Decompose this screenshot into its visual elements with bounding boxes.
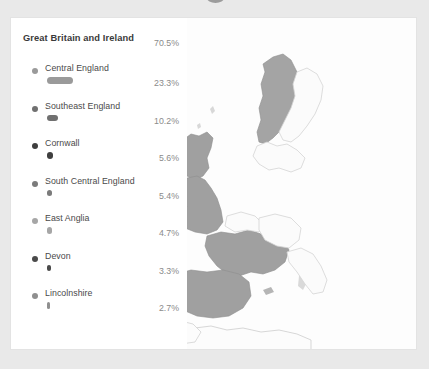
subregion-bar (47, 152, 53, 159)
region-header[interactable]: Great Britain and Ireland 70.5% (11, 30, 187, 56)
subregion-label: Central England (45, 63, 109, 73)
list-item[interactable]: Cornwall 5.6% (11, 137, 187, 175)
subregion-list: Central England 23.3% Southeast England … (11, 62, 187, 325)
subregion-dot-icon (32, 143, 38, 149)
subregion-percent: 23.3% (154, 78, 179, 88)
subregion-bar (47, 227, 52, 234)
subregion-percent: 2.7% (159, 303, 179, 313)
subregion-bar (47, 302, 50, 309)
subregion-dot-icon (32, 293, 38, 299)
subregion-label: Lincolnshire (45, 288, 93, 298)
subregion-label: Southeast England (45, 101, 120, 111)
list-item[interactable]: Lincolnshire 2.7% (11, 287, 187, 325)
subregion-label: South Central England (45, 176, 135, 186)
subregion-percent: 10.2% (154, 116, 179, 126)
list-item[interactable]: Southeast England 10.2% (11, 100, 187, 138)
subregion-dot-icon (32, 106, 38, 112)
subregion-percent: 3.3% (159, 266, 179, 276)
subregion-bar (47, 190, 52, 197)
subregion-label: Cornwall (45, 138, 80, 148)
list-item[interactable]: South Central England 5.4% (11, 175, 187, 213)
ethnicity-card: Great Britain and Ireland 70.5% Central … (11, 18, 416, 349)
subregion-dot-icon (32, 256, 38, 262)
subregion-bar (47, 265, 51, 272)
subregion-label: Devon (45, 251, 71, 261)
subregion-dot-icon (32, 218, 38, 224)
subregion-dot-icon (32, 181, 38, 187)
subregion-bar (47, 115, 58, 122)
subregion-percent: 5.4% (159, 191, 179, 201)
ethnicity-list-panel: Great Britain and Ireland 70.5% Central … (11, 18, 187, 349)
subregion-dot-icon (32, 68, 38, 74)
region-label: Great Britain and Ireland (23, 33, 134, 43)
list-item[interactable]: East Anglia 4.7% (11, 212, 187, 250)
cutoff-indicator-dot (207, 0, 224, 3)
list-item[interactable]: Central England 23.3% (11, 62, 187, 100)
list-item[interactable]: Devon 3.3% (11, 250, 187, 288)
subregion-percent: 4.7% (159, 228, 179, 238)
subregion-bar (47, 77, 73, 84)
region-percent: 70.5% (154, 38, 179, 48)
subregion-percent: 5.6% (159, 153, 179, 163)
subregion-label: East Anglia (45, 213, 90, 223)
